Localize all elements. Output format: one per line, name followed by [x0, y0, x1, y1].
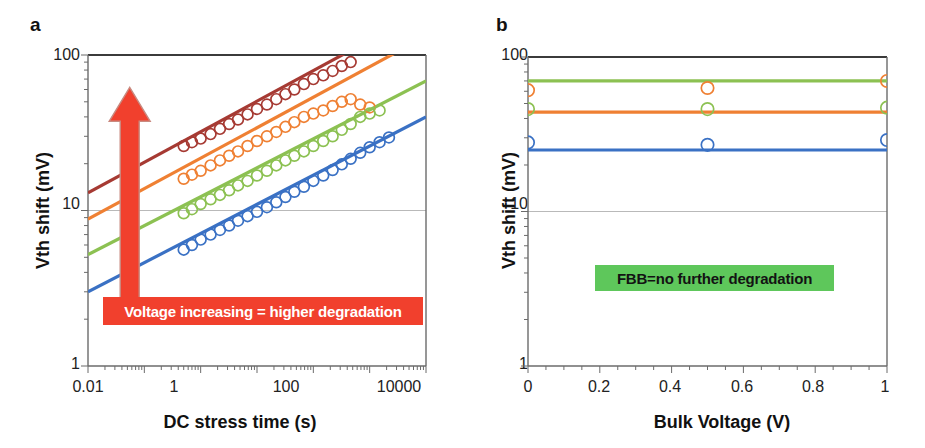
panel-b-annotation-callout: FBB=no further degradation: [595, 265, 834, 291]
panel-b-ytick-10: 10: [470, 195, 528, 213]
panel-b: b Vth shift (mV) Bulk Voltage (V) 100 10…: [462, 0, 925, 448]
series-layer: [522, 75, 893, 151]
marker-low-voltage: [308, 176, 319, 187]
panel-a-ytick-1: 1: [22, 355, 80, 373]
panel-b-ytick-1: 1: [470, 355, 528, 373]
panel-b-xtick-1: 1: [855, 378, 915, 396]
panel-a: a Vth shift (mV) DC stress time (s) 100 …: [0, 0, 462, 448]
panel-b-x-axis-title: Bulk Voltage (V): [612, 412, 832, 433]
panel-a-ytick-100: 100: [22, 46, 80, 64]
panel-a-ytick-10: 10: [22, 195, 80, 213]
panel-b-ytick-100: 100: [470, 46, 528, 64]
panel-a-xtick-100: 100: [254, 378, 318, 396]
marker-mid-voltage: [308, 141, 319, 152]
panel-a-xtick-1: 1: [142, 378, 206, 396]
marker-high-voltage: [195, 165, 206, 176]
panel-b-xtick-0: 0: [498, 378, 558, 396]
panel-a-xtick-0_01: 0.01: [56, 378, 120, 396]
marker-low-voltage: [178, 244, 189, 255]
panel-b-xtick-0_8: 0.8: [783, 378, 843, 396]
panel-b-svg: [528, 57, 887, 366]
panel-b-xtick-0_4: 0.4: [640, 378, 700, 396]
figure-root: a Vth shift (mV) DC stress time (s) 100 …: [0, 0, 925, 448]
panel-b-letter: b: [496, 14, 508, 36]
panel-a-annotation-callout: Voltage increasing = higher degradation: [103, 297, 423, 325]
panel-a-x-axis-title: DC stress time (s): [130, 412, 350, 433]
panel-a-letter: a: [30, 14, 41, 36]
panel-b-plot-area: [528, 57, 887, 366]
marker-low-voltage: [195, 234, 206, 245]
marker-orange-markers: [701, 82, 713, 94]
panel-a-xtick-10000: 10000: [362, 378, 436, 396]
panel-b-xtick-0_6: 0.6: [712, 378, 772, 396]
panel-b-xtick-0_2: 0.2: [569, 378, 629, 396]
marker-highest-voltage: [345, 57, 356, 68]
